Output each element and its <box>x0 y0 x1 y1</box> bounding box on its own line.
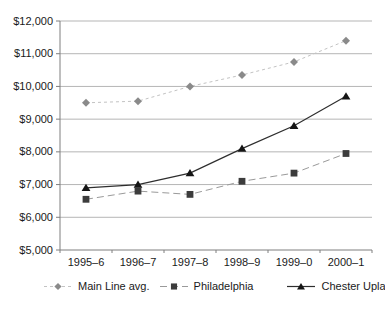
diamond-marker-icon <box>54 282 61 289</box>
triangle-marker-icon <box>186 169 195 176</box>
triangle-marker-icon <box>238 145 247 152</box>
y-axis-label: $12,000 <box>13 15 53 27</box>
diamond-marker-icon <box>44 281 72 292</box>
diamond-marker-icon <box>238 71 246 79</box>
y-axis-label: $7,000 <box>19 178 53 190</box>
y-axis-label: $8,000 <box>19 145 53 157</box>
legend-label-main-line-avg: Main Line avg. <box>78 279 150 293</box>
square-marker-icon <box>187 191 194 198</box>
square-marker-icon <box>135 188 142 195</box>
series-line-main-line-avg <box>86 41 346 103</box>
triangle-marker-icon <box>287 281 315 292</box>
chart-legend: Main Line avg. Philadelphia Chester Upla… <box>0 279 385 293</box>
series-line-chester-upland <box>86 96 346 188</box>
line-chart-figure: $5,000$6,000$7,000$8,000$9,000$10,000$11… <box>0 0 385 311</box>
x-axis-label: 1998–9 <box>224 256 261 268</box>
y-axis-label: $6,000 <box>19 211 53 223</box>
y-axis-label: $9,000 <box>19 113 53 125</box>
square-marker-icon <box>170 283 176 289</box>
diamond-marker-icon <box>290 58 298 66</box>
diamond-marker-icon <box>82 99 90 107</box>
legend-label-chester-upland: Chester Upland <box>321 279 385 293</box>
square-marker-icon <box>291 170 298 177</box>
diamond-marker-icon <box>186 82 194 90</box>
line-chart-canvas: $5,000$6,000$7,000$8,000$9,000$10,000$11… <box>0 0 385 272</box>
y-axis-label: $5,000 <box>19 244 53 256</box>
y-axis-label: $10,000 <box>13 80 53 92</box>
legend-item-chester-upland: Chester Upland <box>287 279 385 293</box>
square-marker-icon <box>83 196 90 203</box>
legend-item-main-line-avg: Main Line avg. <box>44 279 150 293</box>
diamond-marker-icon <box>134 97 142 105</box>
x-axis-label: 2000–1 <box>328 256 365 268</box>
triangle-marker-icon <box>342 92 351 99</box>
y-axis-label: $11,000 <box>14 47 53 59</box>
legend-label-philadelphia: Philadelphia <box>194 279 254 293</box>
x-axis-label: 1997–8 <box>172 256 209 268</box>
square-marker-icon <box>343 150 350 157</box>
square-marker-icon <box>239 178 246 185</box>
x-axis-label: 1996–7 <box>120 256 157 268</box>
legend-item-philadelphia: Philadelphia <box>160 279 254 293</box>
x-axis-label: 1999–0 <box>276 256 313 268</box>
square-marker-icon <box>160 281 188 292</box>
x-axis-label: 1995–6 <box>68 256 105 268</box>
triangle-marker-icon <box>290 122 299 129</box>
diamond-marker-icon <box>342 37 350 45</box>
